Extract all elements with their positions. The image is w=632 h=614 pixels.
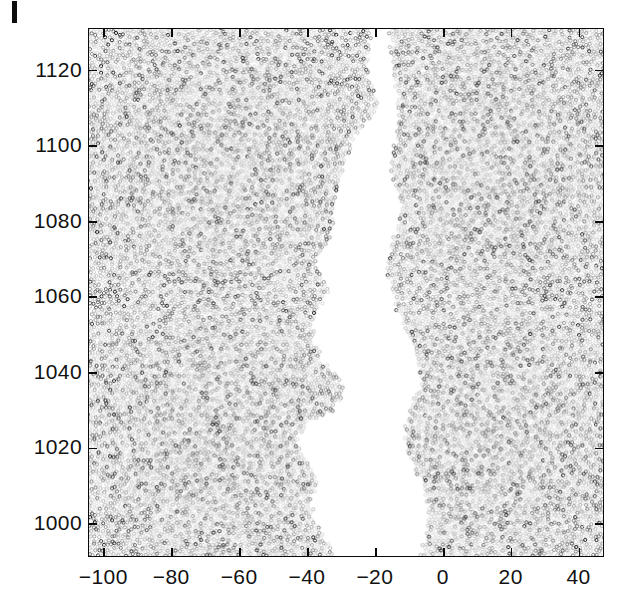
y-axis-tick-label: 1040: [2, 361, 82, 382]
y-axis-tick: [595, 145, 603, 147]
y-axis-tick: [595, 523, 603, 525]
x-axis-tick-labels: −100−80−60−40−2002040: [0, 566, 632, 606]
x-axis-tick: [375, 548, 377, 556]
y-axis-tick: [89, 70, 97, 72]
y-axis-tick-labels: 1000102010401060108011001120: [0, 0, 82, 614]
y-axis-tick: [89, 448, 97, 450]
y-axis-tick: [595, 70, 603, 72]
y-axis-tick: [89, 296, 97, 298]
y-axis-tick: [595, 448, 603, 450]
scatter-canvas: [89, 29, 603, 556]
y-axis-tick-label: 1080: [2, 210, 82, 231]
x-axis-tick: [443, 548, 445, 556]
y-axis-tick: [89, 221, 97, 223]
y-axis-tick: [89, 145, 97, 147]
y-axis-tick: [595, 372, 603, 374]
x-axis-tick: [443, 29, 445, 37]
y-axis-tick-label: 1100: [2, 134, 82, 155]
y-axis-tick: [595, 296, 603, 298]
x-axis-tick: [579, 548, 581, 556]
x-axis-tick: [511, 548, 513, 556]
x-axis-tick: [511, 29, 513, 37]
plot-area: [88, 28, 604, 557]
y-axis-tick: [595, 221, 603, 223]
x-axis-tick: [307, 548, 309, 556]
x-axis-tick: [171, 29, 173, 37]
x-axis-tick: [375, 29, 377, 37]
y-axis-tick-label: 1000: [2, 512, 82, 533]
x-axis-tick: [103, 29, 105, 37]
y-axis-tick: [89, 372, 97, 374]
x-axis-tick: [239, 548, 241, 556]
x-axis-tick-label: 40: [534, 566, 624, 587]
y-axis-tick-label: 1060: [2, 285, 82, 306]
y-axis-tick-label: 1020: [2, 436, 82, 457]
x-axis-tick: [239, 29, 241, 37]
y-axis-tick-label: 1120: [2, 59, 82, 80]
x-axis-tick: [579, 29, 581, 37]
x-axis-tick: [103, 548, 105, 556]
y-axis-tick: [89, 523, 97, 525]
x-axis-tick: [307, 29, 309, 37]
x-axis-tick: [171, 548, 173, 556]
figure-panel: 1000102010401060108011001120 −100−80−60−…: [0, 0, 632, 614]
